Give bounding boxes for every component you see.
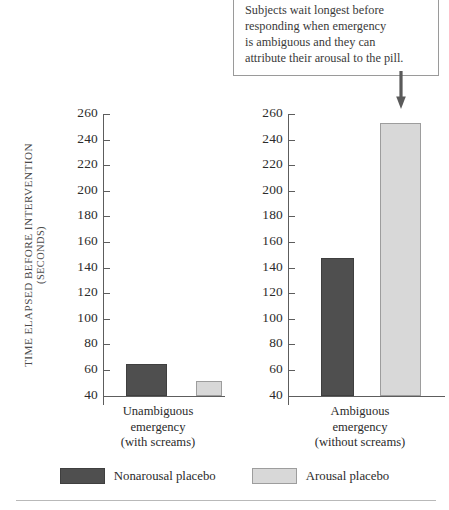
bar-arousal-unambiguous [196,381,222,396]
y-tick-label: 160 [68,233,98,249]
category-label-line: emergency [88,420,228,436]
bar-nonarousal-unambiguous [126,364,167,396]
y-axis-title-main: TIME ELAPSED BEFORE INTERVENTION [22,143,34,367]
plot-area [104,114,225,396]
category-label-unambiguous: Unambiguous emergency (with screams) [88,404,228,451]
legend-swatch-nonarousal [60,468,105,484]
y-tick-label: 200 [253,182,283,198]
y-tick-label: 180 [68,207,98,223]
y-tick-label: 40 [253,387,283,403]
y-tick-label: 140 [253,259,283,275]
y-tick-label: 220 [253,156,283,172]
y-axis-title-sub: (SECONDS) [35,115,46,395]
arrow-down-icon [396,71,406,110]
y-axis-title: TIME ELAPSED BEFORE INTERVENTION (SECOND… [22,115,46,395]
y-tick-label: 160 [253,233,283,249]
category-label-line: Unambiguous [88,404,228,420]
annotation-line: attribute their arousal to the pill. [245,50,429,66]
annotation-line: is ambiguous and they can [245,34,429,50]
legend-item-arousal: Arousal placebo [252,468,390,484]
legend-label: Nonarousal placebo [114,469,216,484]
y-tick-label: 80 [253,335,283,351]
chart-legend: Nonarousal placebo Arousal placebo [0,468,449,484]
y-tick-label: 120 [68,284,98,300]
y-tick-label: 240 [68,131,98,147]
y-tick-label: 240 [253,131,283,147]
y-tick-label: 100 [253,310,283,326]
bar-nonarousal-ambiguous [321,258,354,396]
category-label-line: emergency [285,420,435,436]
plot-area [289,114,445,396]
x-axis-line [288,396,445,397]
panel-ambiguous: 260 240 220 200 180 160 140 120 100 80 6… [245,108,445,403]
y-tick-label: 260 [68,105,98,121]
y-tick-label: 40 [68,387,98,403]
x-axis-line [103,396,225,397]
y-tick-label: 120 [253,284,283,300]
y-tick-mark [103,396,110,397]
bottom-divider [16,500,436,501]
category-label-line: Ambiguous [285,404,435,420]
y-tick-label: 100 [68,310,98,326]
category-label-line: (with screams) [88,435,228,451]
y-tick-label: 60 [253,361,283,377]
legend-item-nonarousal: Nonarousal placebo [60,468,216,484]
annotation-line: Subjects wait longest before [245,2,429,18]
legend-swatch-arousal [252,468,297,484]
y-tick-label: 80 [68,335,98,351]
bar-arousal-ambiguous [380,123,421,396]
category-label-line: (without screams) [285,435,435,451]
bar-chart-figure: Subjects wait longest before responding … [0,0,449,510]
y-tick-label: 60 [68,361,98,377]
annotation-line: responding when emergency [245,18,429,34]
y-tick-label: 140 [68,259,98,275]
y-tick-mark [288,396,295,397]
annotation-callout: Subjects wait longest before responding … [233,0,439,76]
y-tick-label: 200 [68,182,98,198]
legend-label: Arousal placebo [306,469,390,484]
y-tick-label: 260 [253,105,283,121]
y-tick-label: 220 [68,156,98,172]
panel-unambiguous: 260 240 220 200 180 160 140 120 100 80 6… [60,108,225,403]
category-label-ambiguous: Ambiguous emergency (without screams) [285,404,435,451]
y-tick-label: 180 [253,207,283,223]
